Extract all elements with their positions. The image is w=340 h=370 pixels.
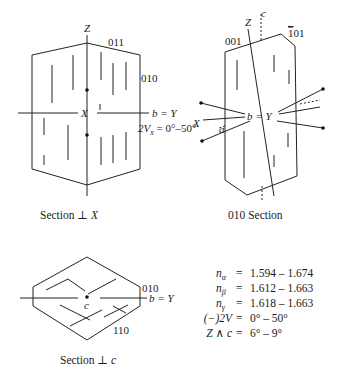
n-gamma-value: 1.618 – 1.663 [250, 297, 314, 309]
section-perp-c: c 010 b = Y 110 Section ⊥ c [20, 257, 175, 366]
two-v-value: 0° – 50° [250, 312, 288, 324]
optic-axis-dot-upper [85, 88, 89, 92]
face-001-label: 001 [225, 35, 242, 47]
z-axis-label: Z [84, 22, 91, 34]
svg-text:nα: nα [216, 267, 227, 282]
x-axis-label: X [80, 107, 89, 119]
b-axis-label-010: b = Y [247, 110, 273, 122]
svg-text:=: = [236, 297, 243, 309]
svg-text:=: = [236, 327, 243, 339]
property-2v: (−)2V = 0° – 50° [204, 312, 289, 325]
dash-ray-right [300, 100, 320, 104]
face-101-label: 101 [288, 27, 305, 39]
optic-axis-dot-lr [321, 126, 325, 130]
svg-text:nβ: nβ [216, 282, 226, 297]
svg-text:(−)2V: (−)2V [204, 312, 234, 325]
c-axis-label-010: c [261, 7, 266, 19]
c-axis-label-c: c [84, 299, 89, 311]
property-n-gamma: nγ = 1.618 – 1.663 [216, 297, 314, 312]
b-axis-label-x: b = Y [152, 107, 178, 119]
face-110-label: 110 [113, 324, 130, 336]
face-010-label: 010 [141, 72, 158, 84]
n-alpha-value: 1.594 – 1.674 [250, 267, 314, 279]
optic-axis-dot-ur [321, 87, 325, 91]
section-010-caption: 010 Section [228, 209, 283, 221]
optic-ray-left [202, 121, 250, 141]
x-axis-label-010: X [192, 117, 201, 129]
optic-axis-dot-ll [200, 139, 204, 143]
property-z-c: Z ∧ c = 6° – 9° [206, 327, 282, 339]
b-axis-label-c: b = Y [149, 292, 175, 304]
two-v-label: 2Vx = 0°–50° [138, 122, 196, 137]
svg-text:=: = [236, 312, 243, 324]
section-perp-x: Z 011 010 X b = Y 2Vx = 0°–50° Section ⊥… [18, 22, 196, 221]
optic-axis-dot-ul [199, 101, 203, 105]
a-axis-label-010: a [219, 123, 225, 135]
svg-text:=: = [236, 282, 243, 294]
z-axis-label-010: Z [245, 16, 252, 28]
x-ray-left [203, 117, 245, 120]
section-010: Z c 001 101 b = Y X a 010 Section [192, 7, 325, 221]
z-c-value: 6° – 9° [250, 327, 283, 339]
mineral-optics-diagram: Z 011 010 X b = Y 2Vx = 0°–50° Section ⊥… [0, 0, 340, 370]
n-beta-value: 1.612 – 1.663 [250, 282, 314, 294]
optical-properties: nα = 1.594 – 1.674 nβ = 1.612 – 1.663 nγ… [204, 267, 314, 339]
optic-ray-right-lower [277, 121, 323, 128]
svg-text:nγ: nγ [216, 297, 226, 312]
svg-text:Z ∧ c: Z ∧ c [206, 327, 232, 339]
section-c-caption: Section ⊥ c [60, 354, 116, 366]
svg-text:=: = [236, 267, 243, 279]
property-n-alpha: nα = 1.594 – 1.674 [216, 267, 314, 282]
optic-axis-dot-lower [85, 133, 89, 137]
face-011-label: 011 [108, 36, 124, 48]
y-ray-left [201, 103, 245, 114]
section-x-caption: Section ⊥ X [40, 209, 99, 221]
property-n-beta: nβ = 1.612 – 1.663 [216, 282, 314, 297]
